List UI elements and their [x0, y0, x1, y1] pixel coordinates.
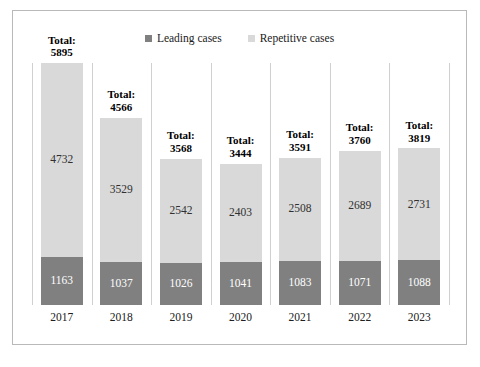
bar-value-label: 2542 — [169, 205, 192, 217]
bar-value-label: 1088 — [408, 277, 431, 289]
total-prefix: Total: — [167, 129, 195, 142]
stacked-bar[interactable]: 47321163 — [41, 63, 83, 305]
bar-value-label: 4732 — [50, 154, 73, 166]
total-prefix: Total: — [48, 34, 76, 47]
stacked-bar[interactable]: 26891071 — [339, 151, 381, 305]
plot-area: Total:589547321163Total:456635291037Tota… — [32, 63, 449, 305]
legend-swatch-repetitive-cases — [248, 35, 255, 42]
total-prefix: Total: — [108, 88, 136, 101]
gridline — [449, 63, 450, 305]
bar-segment-leading-cases[interactable]: 1083 — [279, 261, 321, 305]
bar-value-label: 2403 — [229, 207, 252, 219]
bar-segment-repetitive-cases[interactable]: 2508 — [279, 158, 321, 261]
bar-value-label: 1071 — [348, 277, 371, 289]
total-value: 3568 — [167, 142, 195, 155]
total-value: 3760 — [346, 134, 374, 147]
bar-total-label: Total:5895 — [48, 34, 76, 59]
bar-segment-leading-cases[interactable]: 1163 — [41, 257, 83, 305]
total-value: 5895 — [48, 46, 76, 59]
bar-value-label: 1026 — [169, 278, 192, 290]
x-axis-tick-2021: 2021 — [270, 311, 330, 323]
bar-slot: Total:376026891071 — [330, 63, 390, 305]
total-prefix: Total: — [346, 121, 374, 134]
legend-label-repetitive-cases: Repetitive cases — [260, 33, 334, 45]
bar-slot: Total:381927311088 — [389, 63, 449, 305]
bar-slot: Total:344424031041 — [211, 63, 271, 305]
total-value: 4566 — [108, 101, 136, 114]
chart-frame: Leading cases Repetitive cases Total:589… — [12, 10, 467, 345]
bar-value-label: 1163 — [50, 275, 73, 287]
bar-segment-leading-cases[interactable]: 1041 — [220, 262, 262, 305]
x-axis-tick-2018: 2018 — [92, 311, 152, 323]
bar-slot: Total:359125081083 — [270, 63, 330, 305]
bar-total-label: Total:3568 — [167, 129, 195, 154]
legend-label-leading-cases: Leading cases — [157, 33, 222, 45]
bar-total-label: Total:3444 — [227, 134, 255, 159]
stacked-bar[interactable]: 35291037 — [100, 118, 142, 305]
total-prefix: Total: — [405, 119, 433, 132]
bar-value-label: 2731 — [408, 199, 431, 211]
legend-swatch-leading-cases — [145, 35, 152, 42]
x-axis-tick-2019: 2019 — [151, 311, 211, 323]
bar-total-label: Total:4566 — [108, 88, 136, 113]
total-value: 3819 — [405, 132, 433, 145]
stacked-bar[interactable]: 25421026 — [160, 159, 202, 305]
bar-segment-leading-cases[interactable]: 1071 — [339, 261, 381, 305]
bar-total-label: Total:3760 — [346, 121, 374, 146]
total-value: 3444 — [227, 147, 255, 160]
bar-series-container: Total:589547321163Total:456635291037Tota… — [32, 63, 449, 305]
bar-slot: Total:356825421026 — [151, 63, 211, 305]
stacked-bar[interactable]: 25081083 — [279, 158, 321, 305]
x-axis-tick-2023: 2023 — [389, 311, 449, 323]
bar-segment-repetitive-cases[interactable]: 3529 — [100, 118, 142, 263]
bar-slot: Total:589547321163 — [32, 63, 92, 305]
bar-value-label: 1083 — [289, 277, 312, 289]
bar-value-label: 1041 — [229, 278, 252, 290]
chart-legend: Leading cases Repetitive cases — [13, 33, 466, 45]
bar-segment-repetitive-cases[interactable]: 2689 — [339, 151, 381, 261]
bar-value-label: 2689 — [348, 200, 371, 212]
total-prefix: Total: — [227, 134, 255, 147]
total-prefix: Total: — [286, 128, 314, 141]
x-axis-tick-2017: 2017 — [32, 311, 92, 323]
bar-value-label: 2508 — [289, 203, 312, 215]
legend-item-leading-cases: Leading cases — [145, 33, 222, 45]
bar-value-label: 3529 — [110, 184, 133, 196]
stacked-bar[interactable]: 27311088 — [398, 148, 440, 305]
x-axis-tick-2020: 2020 — [211, 311, 271, 323]
bar-segment-repetitive-cases[interactable]: 2731 — [398, 148, 440, 260]
bar-total-label: Total:3591 — [286, 128, 314, 153]
bar-segment-repetitive-cases[interactable]: 2542 — [160, 159, 202, 263]
total-value: 3591 — [286, 141, 314, 154]
bar-total-label: Total:3819 — [405, 119, 433, 144]
bar-segment-leading-cases[interactable]: 1037 — [100, 262, 142, 305]
x-axis-tick-labels: 2017201820192020202120222023 — [32, 311, 449, 323]
bar-segment-leading-cases[interactable]: 1026 — [160, 263, 202, 305]
bar-segment-repetitive-cases[interactable]: 2403 — [220, 164, 262, 263]
bar-segment-repetitive-cases[interactable]: 4732 — [41, 63, 83, 257]
bar-value-label: 1037 — [110, 278, 133, 290]
bar-slot: Total:456635291037 — [92, 63, 152, 305]
x-axis-tick-2022: 2022 — [330, 311, 390, 323]
legend-item-repetitive-cases: Repetitive cases — [248, 33, 334, 45]
bar-segment-leading-cases[interactable]: 1088 — [398, 260, 440, 305]
stacked-bar[interactable]: 24031041 — [220, 164, 262, 305]
